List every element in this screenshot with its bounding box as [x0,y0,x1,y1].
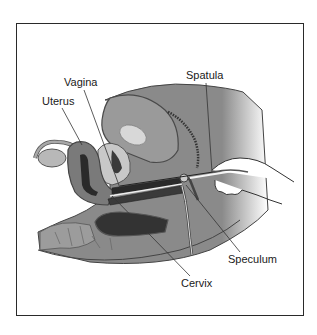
ovary [38,149,66,167]
label-cervix: Cervix [181,278,212,289]
label-uterus: Uterus [42,96,74,107]
label-vagina: Vagina [64,77,97,88]
speculum-hinge [180,174,188,182]
label-speculum: Speculum [228,254,277,265]
leader-uterus [62,108,82,145]
anatomy-illustration [0,0,317,335]
label-spatula: Spatula [186,70,223,81]
